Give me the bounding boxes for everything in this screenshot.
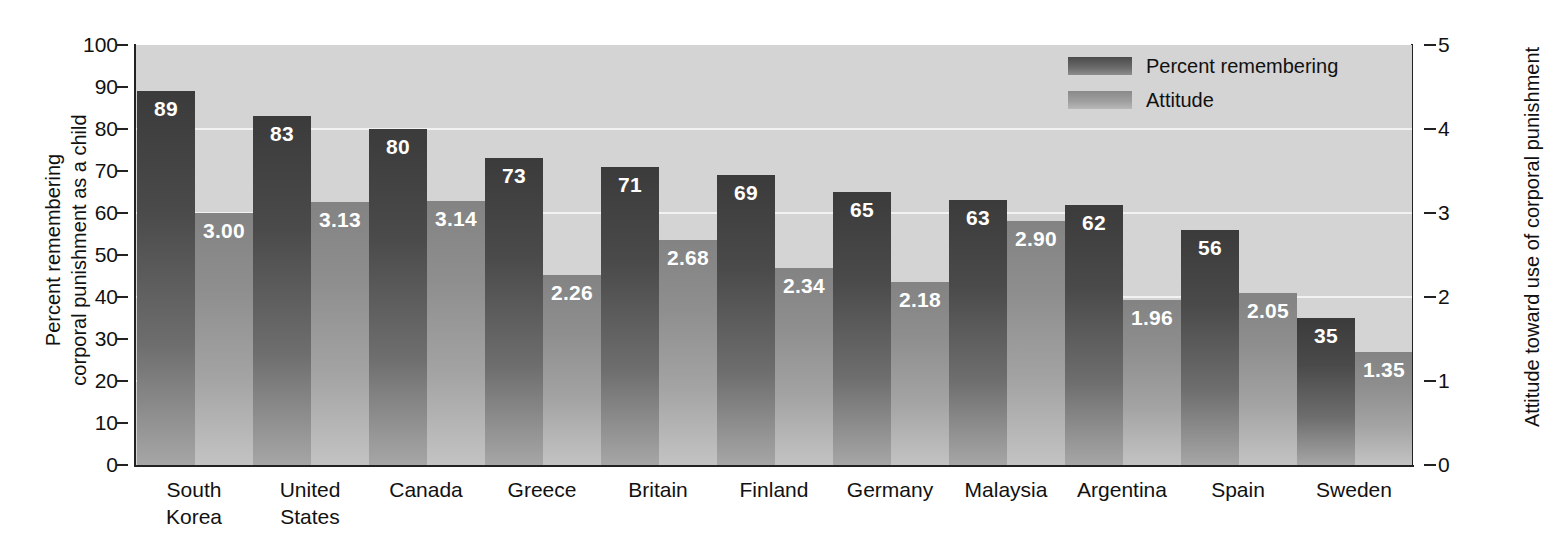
legend-swatch-attitude	[1068, 91, 1132, 109]
left-tick-mark-50	[116, 254, 128, 256]
bar-attitude: 3.00	[195, 213, 253, 465]
bar-value-label: 3.00	[195, 219, 253, 243]
left-tick-label-40: 40	[95, 285, 118, 309]
left-tick-label-10: 10	[95, 411, 118, 435]
category-label-argentina: Argentina	[1064, 476, 1180, 503]
legend-label-percent-remembering: Percent remembering	[1146, 55, 1338, 78]
bar-percent-remembering: 73	[485, 158, 543, 465]
bar-value-label: 63	[949, 206, 1007, 230]
bar-attitude: 2.34	[775, 268, 833, 465]
bar-value-label: 69	[717, 181, 775, 205]
left-tick-label-90: 90	[95, 75, 118, 99]
x-axis-category-labels: South KoreaUnited StatesCanadaGreeceBrit…	[136, 476, 1412, 546]
bar-value-label: 89	[137, 97, 195, 121]
right-tick-mark-1	[1424, 380, 1436, 382]
bar-value-label: 2.18	[891, 288, 949, 312]
bar-group: 632.90	[948, 45, 1064, 465]
category-label-canada: Canada	[368, 476, 484, 503]
category-label-sweden: Sweden	[1296, 476, 1412, 503]
left-tick-label-20: 20	[95, 369, 118, 393]
bar-attitude: 2.90	[1007, 221, 1065, 465]
bar-group: 833.13	[252, 45, 368, 465]
bar-value-label: 2.05	[1239, 299, 1297, 323]
left-tick-label-60: 60	[95, 201, 118, 225]
bar-group: 893.00	[136, 45, 252, 465]
right-tick-label-0: 0	[1438, 453, 1450, 477]
bar-value-label: 65	[833, 198, 891, 222]
bar-value-label: 2.34	[775, 274, 833, 298]
bar-percent-remembering: 83	[253, 116, 311, 465]
bar-attitude: 1.96	[1123, 300, 1181, 465]
right-axis-title: Attitude toward use of corporal punishme…	[1519, 27, 1545, 447]
bar-group: 692.34	[716, 45, 832, 465]
right-tick-label-1: 1	[1438, 369, 1450, 393]
bar-attitude: 2.26	[543, 275, 601, 465]
bar-percent-remembering: 63	[949, 200, 1007, 465]
category-label-malaysia: Malaysia	[948, 476, 1064, 503]
bar-value-label: 35	[1297, 324, 1355, 348]
left-tick-mark-70	[116, 170, 128, 172]
right-tick-label-4: 4	[1438, 117, 1450, 141]
bar-value-label: 3.14	[427, 207, 485, 231]
right-tick-label-2: 2	[1438, 285, 1450, 309]
left-tick-mark-60	[116, 212, 128, 214]
bar-value-label: 3.13	[311, 208, 369, 232]
bar-attitude: 1.35	[1355, 352, 1412, 465]
bar-percent-remembering: 80	[369, 129, 427, 465]
bar-attitude: 3.14	[427, 201, 485, 465]
bar-percent-remembering: 69	[717, 175, 775, 465]
category-label-south-korea: South Korea	[136, 476, 252, 530]
bar-percent-remembering: 62	[1065, 205, 1123, 465]
bar-attitude: 2.68	[659, 240, 717, 465]
bar-value-label: 1.35	[1355, 358, 1412, 382]
left-tick-mark-80	[116, 128, 128, 130]
legend-swatch-percent-remembering	[1068, 57, 1132, 75]
bar-value-label: 56	[1181, 236, 1239, 260]
bar-percent-remembering: 35	[1297, 318, 1355, 465]
category-label-finland: Finland	[716, 476, 832, 503]
bar-attitude: 2.18	[891, 282, 949, 465]
left-tick-label-70: 70	[95, 159, 118, 183]
left-tick-mark-100	[116, 44, 128, 46]
right-tick-mark-2	[1424, 296, 1436, 298]
bar-attitude: 3.13	[311, 202, 369, 465]
bar-group: 803.14	[368, 45, 484, 465]
bar-value-label: 2.26	[543, 281, 601, 305]
left-tick-label-30: 30	[95, 327, 118, 351]
right-tick-mark-3	[1424, 212, 1436, 214]
bar-value-label: 1.96	[1123, 306, 1181, 330]
left-tick-label-100: 100	[83, 33, 118, 57]
bar-value-label: 83	[253, 122, 311, 146]
bar-percent-remembering: 89	[137, 91, 195, 465]
bar-value-label: 2.68	[659, 246, 717, 270]
bar-group: 652.18	[832, 45, 948, 465]
chart-legend: Percent remembering Attitude	[1068, 52, 1338, 120]
left-tick-mark-0	[116, 464, 128, 466]
legend-item-attitude: Attitude	[1068, 86, 1338, 114]
category-label-germany: Germany	[832, 476, 948, 503]
left-tick-mark-90	[116, 86, 128, 88]
legend-label-attitude: Attitude	[1146, 89, 1214, 112]
bar-group: 732.26	[484, 45, 600, 465]
bar-value-label: 71	[601, 173, 659, 197]
category-label-united-states: United States	[252, 476, 368, 530]
bar-value-label: 80	[369, 135, 427, 159]
bar-percent-remembering: 65	[833, 192, 891, 465]
left-tick-mark-30	[116, 338, 128, 340]
right-tick-label-3: 3	[1438, 201, 1450, 225]
bar-group: 712.68	[600, 45, 716, 465]
legend-item-percent-remembering: Percent remembering	[1068, 52, 1338, 80]
bar-value-label: 62	[1065, 211, 1123, 235]
left-tick-label-50: 50	[95, 243, 118, 267]
right-tick-mark-5	[1424, 44, 1436, 46]
category-label-britain: Britain	[600, 476, 716, 503]
right-tick-mark-0	[1424, 464, 1436, 466]
right-tick-mark-4	[1424, 128, 1436, 130]
left-tick-mark-20	[116, 380, 128, 382]
bar-value-label: 2.90	[1007, 227, 1065, 251]
category-label-spain: Spain	[1180, 476, 1296, 503]
left-axis-ticks: 0102030405060708090100	[72, 0, 128, 551]
left-tick-mark-10	[116, 422, 128, 424]
category-label-greece: Greece	[484, 476, 600, 503]
